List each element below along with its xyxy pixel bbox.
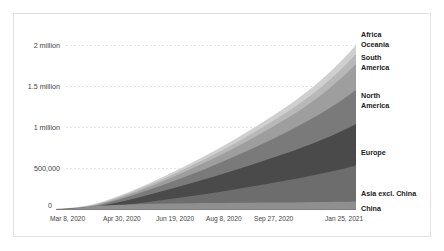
chart-card: 2 million 1.5 million 1 million 500,000 … xyxy=(13,13,431,237)
series-label-asia-excl-china: Asia excl. China xyxy=(361,189,417,198)
series-label-north-america-line2: America xyxy=(361,101,390,110)
y-axis-labels: 2 million 1.5 million 1 million 500,000 … xyxy=(28,41,60,210)
series-label-south-america-line2: America xyxy=(361,63,390,72)
x-tick-jan-25-2021: Jan 25, 2021 xyxy=(325,215,363,222)
y-tick-zero: 0 xyxy=(48,201,52,210)
x-tick-mar-8-2020: Mar 8, 2020 xyxy=(50,215,86,222)
series-label-south-america-line1: South xyxy=(361,53,381,62)
series-label-oceania: Oceania xyxy=(361,40,390,49)
x-tick-apr-30-2020: Apr 30, 2020 xyxy=(103,215,141,223)
series-label-north-america-line1: North xyxy=(361,91,380,100)
y-tick-2million: 2 million xyxy=(34,41,60,50)
series-label-africa: Africa xyxy=(361,30,382,39)
stacked-area-chart: 2 million 1.5 million 1 million 500,000 … xyxy=(14,14,432,238)
chart-svg: 2 million 1.5 million 1 million 500,000 … xyxy=(14,14,432,238)
x-tick-jun-19-2020: Jun 19, 2020 xyxy=(156,215,194,222)
x-tick-aug-8-2020: Aug 8, 2020 xyxy=(206,215,242,223)
series-label-europe: Europe xyxy=(361,148,386,157)
x-tick-sep-27-2020: Sep 27, 2020 xyxy=(254,215,294,223)
y-tick-500k: 500,000 xyxy=(34,164,60,173)
y-tick-1-5million: 1.5 million xyxy=(28,82,60,91)
x-axis-labels: Mar 8, 2020 Apr 30, 2020 Jun 19, 2020 Au… xyxy=(50,215,363,223)
series-labels: Africa Oceania South America North Ameri… xyxy=(361,30,417,213)
series-label-china: China xyxy=(361,204,382,213)
y-tick-1million: 1 million xyxy=(34,123,60,132)
